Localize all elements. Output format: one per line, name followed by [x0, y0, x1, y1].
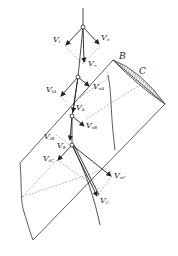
label-v-tb: VtB: [44, 133, 54, 141]
label-v-nc: VnC: [114, 172, 125, 180]
label-v-c: VC: [100, 197, 109, 205]
label-v-tc: VtC: [43, 155, 53, 163]
label-v-nb: VnB: [86, 122, 97, 130]
label-v-n: Vn: [101, 34, 109, 42]
label-v-inf: V∞: [88, 60, 97, 68]
label-v-b: VB: [57, 142, 66, 150]
label-v-t: Vt: [53, 36, 60, 44]
label-v-na: VnA: [93, 83, 104, 91]
point-b-label: B: [119, 52, 126, 61]
label-v-ta: VtA: [46, 86, 56, 94]
point-c-label: C: [139, 67, 146, 76]
label-v-a: VA: [76, 104, 85, 112]
